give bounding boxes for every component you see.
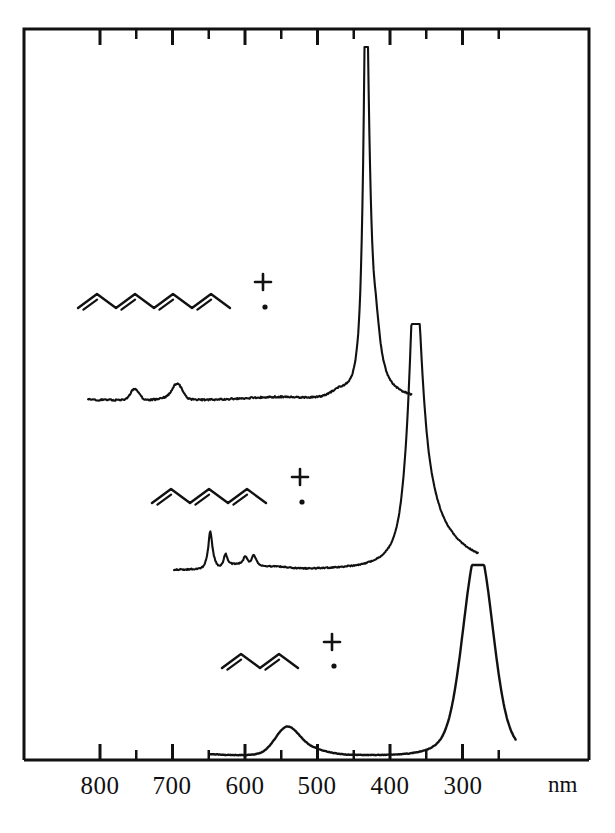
spectrum-trace-octatetraene [88, 47, 411, 401]
axis-tick-label: 300 [423, 772, 503, 800]
spectrum-trace-hexatriene [174, 324, 478, 570]
spectra-plot [0, 0, 615, 833]
plot-border [24, 29, 589, 760]
axis-unit-label: nm [548, 772, 577, 798]
axis-tick-label: 500 [277, 772, 357, 800]
bond-skeleton [78, 294, 230, 308]
molecular-structures [78, 274, 340, 670]
axis-tick-label: 800 [60, 772, 140, 800]
radical-dot-icon [262, 304, 267, 309]
spectra-figure: 800700600500400300 nm [0, 0, 615, 833]
axis-tick-label: 400 [350, 772, 430, 800]
radical-dot-icon [299, 499, 304, 504]
axis-tick-label: 700 [132, 772, 212, 800]
spectrum-trace-butadiene [210, 565, 516, 755]
spectra-traces [88, 47, 516, 755]
radical-dot-icon [331, 663, 336, 668]
octatetraene-structure [78, 274, 271, 310]
axis-ticks [100, 29, 499, 760]
axis-tick-label: 600 [205, 772, 285, 800]
hexatriene-structure [152, 469, 308, 505]
plot-frame [24, 29, 589, 760]
butadiene-structure [222, 634, 340, 670]
